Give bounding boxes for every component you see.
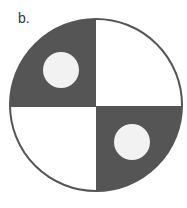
quadrant-circle-diagram [0, 0, 187, 208]
quadrant-top-right [96, 0, 187, 106]
quadrant-top-left [0, 0, 96, 107]
quadrant-bottom-left [0, 107, 96, 208]
inner-circle-bottom-right [114, 124, 150, 160]
inner-circle-top-left [43, 52, 79, 88]
